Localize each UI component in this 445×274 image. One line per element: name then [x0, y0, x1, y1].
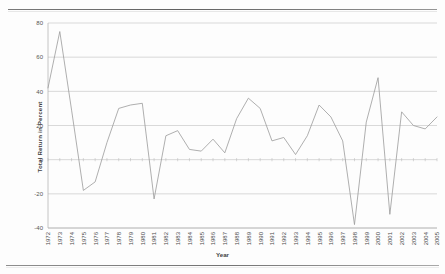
- data-series-line: [48, 32, 437, 225]
- x-tick-label: 1987: [222, 231, 228, 245]
- page-rule-bottom: [6, 265, 439, 266]
- x-tick-label: 2005: [434, 231, 440, 245]
- y-tick-label: 40: [36, 89, 43, 95]
- y-tick-label: 20: [36, 123, 43, 129]
- y-tick-label: 60: [36, 54, 43, 60]
- x-tick-label: 1991: [269, 231, 275, 245]
- x-tick-label: 2002: [399, 231, 405, 245]
- x-tick-label: 1981: [151, 231, 157, 245]
- x-tick-label: 1976: [93, 231, 99, 245]
- chart-canvas: -40-20020406080 197219731974197519761977…: [0, 14, 445, 264]
- x-tick-label: 2001: [387, 231, 393, 245]
- x-tick-label: 1972: [45, 231, 51, 245]
- x-tick-label: 1983: [175, 231, 181, 245]
- page-rule-top-shadow: [8, 11, 437, 12]
- x-tick-label: 2003: [411, 231, 417, 245]
- x-tick-label: 1982: [163, 231, 169, 245]
- x-tick-label: 1990: [258, 231, 264, 245]
- x-tick-label: 1995: [317, 231, 323, 245]
- y-tick-label: -40: [34, 225, 43, 231]
- x-tick-label: 1997: [340, 231, 346, 245]
- y-tick-labels: -40-20020406080: [34, 20, 43, 231]
- x-tick-label: 1973: [57, 231, 63, 245]
- x-tick-label: 1992: [281, 231, 287, 245]
- x-tick-label: 1994: [305, 231, 311, 245]
- x-tick-label: 2000: [375, 231, 381, 245]
- scanned-page: Total Return in Percent Year -40-2002040…: [0, 0, 445, 274]
- x-tick-labels: 1972197319741975197619771978197919801981…: [45, 231, 440, 245]
- x-tick-label: 1979: [128, 231, 134, 245]
- x-tick-label: 1999: [364, 231, 370, 245]
- y-tick-label: -20: [34, 191, 43, 197]
- y-tick-label: 80: [36, 20, 43, 26]
- page-rule-top: [8, 9, 437, 10]
- x-tick-label: 1989: [246, 231, 252, 245]
- x-tick-label: 1998: [352, 231, 358, 245]
- x-tick-label: 1978: [116, 231, 122, 245]
- x-tick-label: 1988: [234, 231, 240, 245]
- x-tick-label: 2004: [423, 231, 429, 245]
- x-tick-label: 1993: [293, 231, 299, 245]
- x-tick-label: 1977: [104, 231, 110, 245]
- x-tick-label: 1980: [140, 231, 146, 245]
- x-tick-label: 1974: [69, 231, 75, 245]
- x-tick-label: 1986: [210, 231, 216, 245]
- x-tick-label: 1996: [328, 231, 334, 245]
- grid-lines: [48, 23, 437, 228]
- line-chart: -40-20020406080 197219731974197519761977…: [0, 14, 445, 264]
- x-tick-label: 1985: [199, 231, 205, 245]
- y-tick-label: 0: [40, 157, 44, 163]
- x-tick-label: 1984: [187, 231, 193, 245]
- page-rule-bottom-shadow: [6, 267, 439, 268]
- x-tick-label: 1975: [81, 231, 87, 245]
